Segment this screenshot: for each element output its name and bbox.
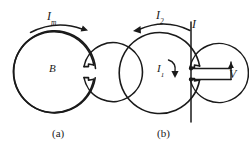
physics-figure: Im B (a) I2 I1 I V (b) [0, 0, 249, 152]
label-current-im: Im [47, 10, 56, 25]
label-current-i: I [192, 18, 196, 30]
panel-a-inner-ring-arc [84, 43, 142, 102]
panel-a-gap-notch-lower [84, 78, 94, 81]
panel-b-terminal-dot-top [189, 66, 193, 70]
panel-a-gap-notch [84, 64, 94, 67]
panel-b-inner-current-arrowhead [171, 71, 178, 78]
panel-b-current-arc-arrow [139, 24, 190, 31]
label-current-i1: I1 [157, 63, 164, 77]
panel-b-inner-ring-arc [190, 44, 248, 103]
caption-panel-a: (a) [52, 128, 64, 139]
label-voltage-v: V [229, 68, 236, 80]
label-current-i2: I2 [156, 9, 164, 24]
figure-drawing [0, 0, 249, 152]
caption-panel-b: (b) [157, 128, 170, 139]
panel-a-current-arrowhead [81, 26, 88, 32]
panel-b-current-arrowhead [133, 26, 141, 34]
panel-b-inner-current-arc-arrow [169, 60, 176, 72]
label-field-b: B [49, 63, 56, 74]
panel-b-terminal-dot-bottom [189, 77, 193, 81]
